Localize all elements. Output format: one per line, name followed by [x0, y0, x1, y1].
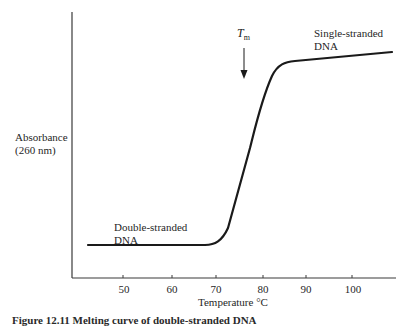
tm-arrow-head-icon [241, 70, 248, 79]
annotation-double-stranded-line1: Double-stranded [114, 221, 187, 234]
melting-curve [88, 52, 392, 245]
annotation-single-stranded-line2: DNA [314, 40, 383, 53]
annotation-double-stranded: Double-stranded DNA [114, 221, 187, 247]
x-axis-label: Temperature °C [198, 296, 268, 309]
annotation-single-stranded: Single-stranded DNA [314, 27, 383, 53]
y-axis-label-line2: (260 nm) [15, 144, 68, 157]
tm-label: Tm [237, 26, 250, 42]
tm-label-main: T [237, 26, 244, 40]
annotation-single-stranded-line1: Single-stranded [314, 27, 383, 40]
y-axis-label: Absorbance (260 nm) [15, 131, 68, 157]
x-tick-label-70: 70 [211, 283, 222, 296]
x-tick-label-80: 80 [258, 283, 269, 296]
x-tick-label-100: 100 [345, 283, 362, 296]
annotation-double-stranded-line2: DNA [114, 234, 187, 247]
x-tick-label-90: 90 [301, 283, 312, 296]
y-axis-label-line1: Absorbance [15, 131, 68, 144]
x-tick-label-50: 50 [119, 283, 130, 296]
x-tick-label-60: 60 [167, 283, 178, 296]
tm-label-sub: m [244, 33, 250, 42]
figure-caption: Figure 12.11 Melting curve of double-str… [12, 314, 257, 327]
